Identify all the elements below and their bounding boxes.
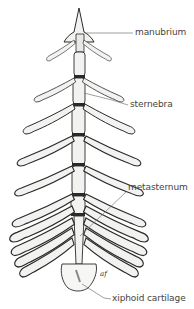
ribs-right xyxy=(82,40,148,277)
sternum-diagram xyxy=(0,0,194,309)
label-xiphoid-cartilage: xiphoid cartilage xyxy=(112,293,186,303)
ribs-left xyxy=(10,40,76,277)
label-sternebra: sternebra xyxy=(130,99,173,109)
label-manubrium: manubrium xyxy=(135,27,186,37)
artist-signature: af xyxy=(100,270,107,278)
label-metasternum: metasternum xyxy=(128,182,188,192)
